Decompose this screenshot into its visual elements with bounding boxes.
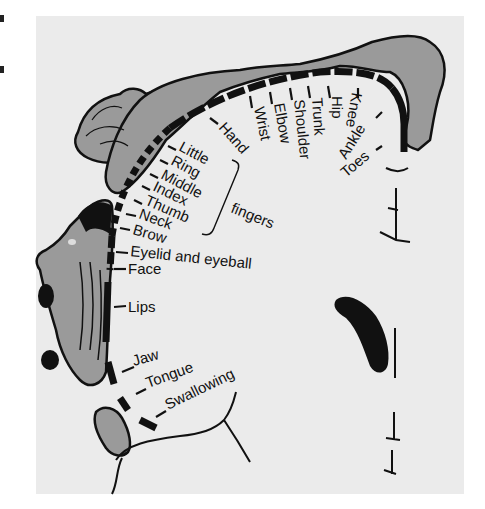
- label-elbow: Elbow: [271, 102, 295, 145]
- eye: [68, 239, 76, 245]
- label-hip: Hip: [329, 96, 346, 119]
- label-wrist: Wrist: [251, 105, 275, 142]
- cortex-lips: [106, 282, 108, 342]
- label-face: Face: [128, 260, 161, 277]
- label-lips: Lips: [128, 298, 156, 315]
- body-figure: [37, 36, 445, 455]
- label-trunk: Trunk: [309, 97, 329, 136]
- homunculus-illustration: Hand Wrist Elbow Shoulder Trunk Hip Knee…: [0, 0, 485, 509]
- ventricle-shape: [334, 297, 388, 373]
- label-fingers: fingers: [229, 199, 277, 232]
- mouth-lower: [41, 350, 59, 370]
- cortex-swallowing: [140, 420, 156, 428]
- cortex-arc-knee: [392, 88, 404, 124]
- cortex-jaw: [108, 362, 114, 384]
- mouth-upper: [38, 284, 54, 308]
- genital-arc: [386, 168, 408, 171]
- fingers-bracket: [202, 160, 239, 235]
- label-jaw: Jaw: [130, 345, 160, 369]
- label-hand: Hand: [216, 119, 253, 157]
- cortex-tongue: [120, 398, 128, 410]
- tongue-shape: [95, 408, 130, 456]
